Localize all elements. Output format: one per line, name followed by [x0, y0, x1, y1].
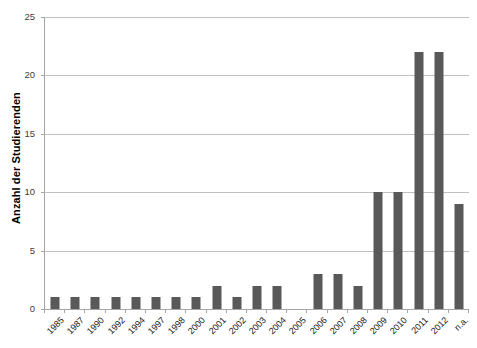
bar — [374, 192, 383, 309]
bar-slot — [126, 17, 146, 309]
x-tick-label: 1997 — [146, 315, 167, 336]
bar — [91, 297, 100, 309]
bar — [192, 297, 201, 309]
bar-slot — [207, 17, 227, 309]
bar — [454, 204, 463, 309]
x-tick-label: 2002 — [227, 315, 248, 336]
bar — [212, 286, 221, 309]
x-tick-label: n.a. — [452, 315, 470, 333]
bar — [434, 52, 443, 309]
bar-slot — [388, 17, 408, 309]
bar — [232, 297, 241, 309]
x-tick-label: 2007 — [328, 315, 349, 336]
bar — [333, 274, 342, 309]
x-tick-label: 2006 — [307, 315, 328, 336]
x-tick-label: 2001 — [206, 315, 227, 336]
y-tick-label: 0 — [1, 303, 35, 314]
x-tick-label: 2003 — [247, 315, 268, 336]
y-tick-label: 10 — [1, 186, 35, 197]
bar-slot — [85, 17, 105, 309]
bar — [172, 297, 181, 309]
chart-title-strip — [0, 0, 477, 6]
bar — [152, 297, 161, 309]
bar-slot — [287, 17, 307, 309]
x-tick-label: 1987 — [65, 315, 86, 336]
bar-slot — [166, 17, 186, 309]
bar — [252, 286, 261, 309]
x-tick-label: 2004 — [267, 315, 288, 336]
x-tick-label: 1994 — [126, 315, 147, 336]
x-tick-label: 1992 — [105, 315, 126, 336]
x-tick-label: 2012 — [429, 315, 450, 336]
bar — [273, 286, 282, 309]
bar — [111, 297, 120, 309]
bar-series — [45, 17, 469, 309]
bar-slot — [328, 17, 348, 309]
x-tick-label: 2008 — [348, 315, 369, 336]
bar-slot — [227, 17, 247, 309]
bar — [71, 297, 80, 309]
y-tick-label: 15 — [1, 128, 35, 139]
x-tick-label: 1998 — [166, 315, 187, 336]
x-tick-label: 2011 — [409, 315, 430, 336]
bar — [313, 274, 322, 309]
y-axis-title: Anzahl der Studierenden — [10, 58, 22, 258]
plot-area: 0510152025 — [44, 17, 469, 310]
x-tick-mark — [468, 309, 469, 313]
bar-slot — [247, 17, 267, 309]
x-tick-label: 1985 — [45, 315, 66, 336]
bar-slot — [146, 17, 166, 309]
bar — [394, 192, 403, 309]
bar-slot — [429, 17, 449, 309]
y-tick-label: 20 — [1, 69, 35, 80]
y-tick-label: 25 — [1, 11, 35, 22]
x-tick-label: 2000 — [186, 315, 207, 336]
bar-slot — [307, 17, 327, 309]
x-tick-label: 2005 — [287, 315, 308, 336]
bar-slot — [348, 17, 368, 309]
bar-chart: Anzahl der Studierenden 0510152025 19851… — [0, 0, 477, 348]
x-axis-labels: 1985198719901992199419971998200020012002… — [44, 313, 468, 348]
bar-slot — [186, 17, 206, 309]
bar-slot — [45, 17, 65, 309]
bar — [353, 286, 362, 309]
bar-slot — [65, 17, 85, 309]
bar-slot — [106, 17, 126, 309]
bar-slot — [449, 17, 469, 309]
x-tick-label: 2010 — [388, 315, 409, 336]
bar — [131, 297, 140, 309]
x-tick-label: 2009 — [368, 315, 389, 336]
bar-slot — [408, 17, 428, 309]
bar-slot — [368, 17, 388, 309]
y-tick-label: 5 — [1, 245, 35, 256]
bar — [414, 52, 423, 309]
bar-slot — [267, 17, 287, 309]
bar — [51, 297, 60, 309]
x-tick-label: 1990 — [85, 315, 106, 336]
